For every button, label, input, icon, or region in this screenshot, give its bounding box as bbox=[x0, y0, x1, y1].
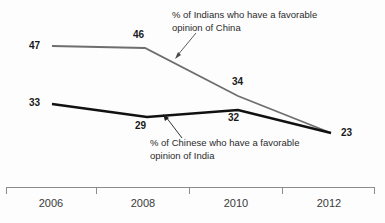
annotation-indians-china-line2: opinion of China bbox=[172, 22, 317, 35]
annotation-indians-china: % of Indians who have a favorable opinio… bbox=[172, 9, 317, 34]
annotation-indians-china-line1: % of Indians who have a favorable bbox=[172, 9, 317, 22]
annotation-arrowhead-top bbox=[175, 52, 181, 59]
line-chart: 47 46 34 23 33 29 32 % of Indians who ha… bbox=[0, 0, 385, 223]
data-label-chinese-india-2010: 32 bbox=[228, 112, 239, 123]
annotation-chinese-india-line2: opinion of India bbox=[150, 150, 299, 163]
data-label-shared-2012: 23 bbox=[341, 127, 352, 138]
series-line-indians-china bbox=[52, 46, 331, 133]
data-label-chinese-india-2008: 29 bbox=[135, 120, 146, 131]
x-axis-label-2008: 2008 bbox=[113, 197, 173, 209]
data-label-indians-china-2008: 46 bbox=[133, 29, 144, 40]
annotation-leader-top bbox=[177, 33, 196, 56]
x-axis-label-2006: 2006 bbox=[21, 197, 81, 209]
data-label-indians-china-2010: 34 bbox=[232, 76, 243, 87]
data-label-chinese-india-2006: 33 bbox=[29, 97, 40, 108]
annotation-leader-bottom bbox=[166, 117, 182, 138]
annotation-chinese-india-line1: % of Chinese who have a favorable bbox=[150, 137, 299, 150]
annotation-chinese-india: % of Chinese who have a favorable opinio… bbox=[150, 137, 299, 162]
x-axis-label-2012: 2012 bbox=[299, 197, 359, 209]
x-axis-label-2010: 2010 bbox=[206, 197, 266, 209]
data-label-indians-china-2006: 47 bbox=[29, 40, 40, 51]
series-line-chinese-india bbox=[52, 104, 331, 133]
